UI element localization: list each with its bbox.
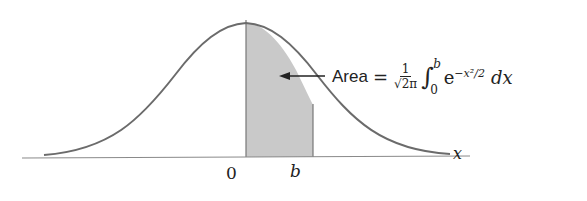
differential: dx [491, 67, 513, 88]
equals-sign: = [373, 67, 388, 88]
integral-lower-limit: 0 [430, 83, 438, 97]
tick-label-zero: 0 [226, 163, 237, 183]
shaded-area [246, 23, 313, 157]
integrand-exponent: −x²/2 [454, 67, 485, 80]
fraction-denominator: √2π [394, 77, 417, 91]
fraction: 1 √2π [394, 63, 417, 91]
integrand-base: e [444, 67, 455, 88]
fraction-numerator: 1 [400, 63, 412, 77]
integral: ∫ b 0 [421, 63, 434, 91]
x-axis-label: x [453, 144, 462, 163]
integrand: e−x²/2 [444, 67, 485, 88]
area-word: Area [332, 67, 368, 87]
tick-label-b: b [290, 161, 301, 181]
area-formula: Area = 1 √2π ∫ b 0 e−x²/2 dx [332, 63, 513, 91]
integral-upper-limit: b [433, 57, 441, 71]
